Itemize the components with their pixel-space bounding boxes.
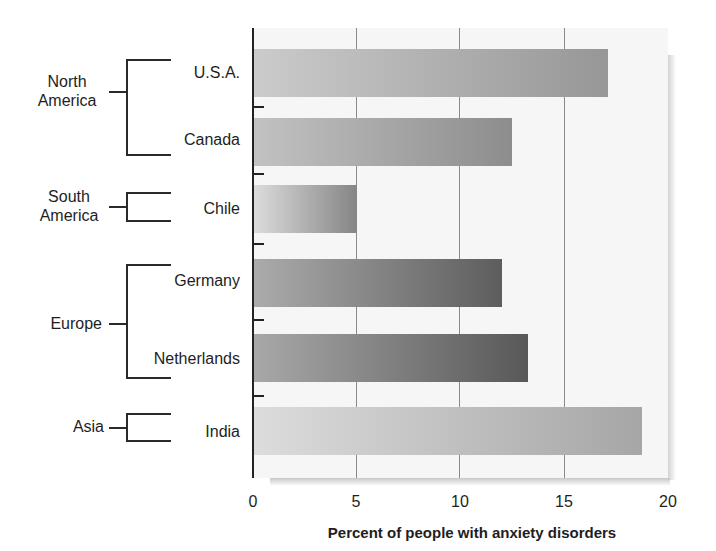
category-label-chile: Chile xyxy=(120,200,240,218)
x-axis-title: Percent of people with anxiety disorders xyxy=(262,524,682,541)
x-tick-label-5: 5 xyxy=(336,493,376,511)
bar-netherlands xyxy=(254,334,528,382)
bar-chile xyxy=(254,185,357,233)
group-label-asia: Asia xyxy=(50,417,104,436)
x-tick-label-20: 20 xyxy=(648,493,688,511)
category-label-netherlands: Netherlands xyxy=(120,350,240,368)
category-label-canada: Canada xyxy=(120,131,240,149)
category-label-germany: Germany xyxy=(120,272,240,290)
bar-germany xyxy=(254,259,502,307)
bar-usa xyxy=(254,49,608,97)
panel-shadow-bottom xyxy=(270,478,670,486)
y-tick xyxy=(253,243,264,245)
bar-canada xyxy=(254,118,512,166)
x-tick-label-10: 10 xyxy=(440,493,480,511)
bar-india xyxy=(254,407,642,455)
group-label-north-america: North America xyxy=(28,72,106,110)
y-tick xyxy=(253,106,264,108)
y-tick xyxy=(253,395,264,397)
category-label-usa: U.S.A. xyxy=(120,64,240,82)
group-label-south-america: South America xyxy=(30,187,108,225)
x-tick-label-0: 0 xyxy=(233,493,273,511)
category-label-india: India xyxy=(120,423,240,441)
group-label-europe: Europe xyxy=(36,314,102,333)
y-tick xyxy=(253,319,264,321)
y-tick xyxy=(253,173,264,175)
x-tick-label-15: 15 xyxy=(544,493,584,511)
y-axis xyxy=(252,28,254,478)
panel-shadow-right xyxy=(668,55,676,480)
